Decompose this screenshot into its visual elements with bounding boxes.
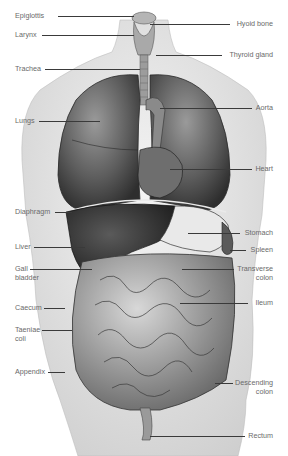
large-intestine bbox=[72, 254, 235, 410]
label-epiglottis: Epiglottis bbox=[15, 11, 44, 20]
label-lungs: Lungs bbox=[15, 116, 35, 125]
label-hyoid-bone: Hyoid bone bbox=[237, 19, 273, 28]
label-transverse-colon: Transverse colon bbox=[237, 264, 273, 282]
leader-line-rectum bbox=[150, 436, 245, 437]
leader-line-liver bbox=[34, 247, 85, 248]
label-rectum: Rectum bbox=[248, 431, 273, 440]
label-spleen: Spleen bbox=[251, 245, 273, 254]
label-aorta: Aorta bbox=[256, 103, 273, 112]
label-descending-colon: Descending colon bbox=[235, 378, 273, 396]
leader-line-thyroid-gland bbox=[156, 55, 222, 56]
label-trachea: Trachea bbox=[15, 64, 41, 73]
leader-line-aorta bbox=[160, 108, 252, 109]
leader-line-appendix bbox=[48, 372, 65, 373]
label-thyroid-gland: Thyroid gland bbox=[229, 50, 273, 59]
leader-line-lungs bbox=[39, 121, 100, 122]
leader-line-caecum bbox=[44, 308, 65, 309]
leader-line-taeniae-coli bbox=[42, 330, 72, 331]
label-larynx: Larynx bbox=[15, 30, 37, 39]
leader-line-heart bbox=[170, 169, 252, 170]
label-appendix: Appendix bbox=[15, 367, 45, 376]
leader-line-trachea bbox=[45, 69, 140, 70]
label-ileum: Ileum bbox=[255, 298, 273, 307]
leader-line-gall-bladder bbox=[30, 269, 92, 270]
leader-line-transverse-colon bbox=[182, 269, 234, 270]
label-liver: Liver bbox=[15, 242, 31, 251]
leader-line-stomach bbox=[188, 233, 240, 234]
leader-line-diaphragm bbox=[55, 212, 72, 213]
leader-line-larynx bbox=[42, 35, 134, 36]
leader-line-epiglottis bbox=[58, 16, 134, 17]
label-taeniae-coli: Taeniae coli bbox=[15, 325, 40, 343]
label-caecum: Caecum bbox=[15, 303, 42, 312]
leader-line-descending-colon bbox=[215, 383, 233, 384]
label-diaphragm: Diaphragm bbox=[15, 207, 50, 216]
leader-line-spleen bbox=[230, 250, 246, 251]
label-stomach: Stomach bbox=[245, 228, 273, 237]
label-heart: Heart bbox=[255, 164, 273, 173]
leader-line-ileum bbox=[180, 303, 248, 304]
label-gall-bladder: Gall bladder bbox=[15, 264, 39, 282]
leader-line-hyoid-bone bbox=[150, 24, 230, 25]
